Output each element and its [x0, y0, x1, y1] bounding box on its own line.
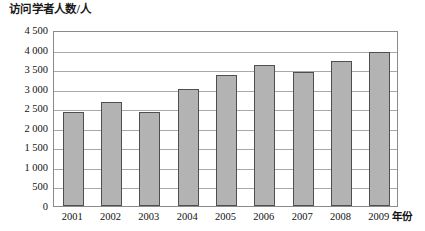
bar — [331, 61, 352, 206]
y-axis-title: 访问学者人数/人 — [9, 2, 92, 16]
y-tick-label: 4 000 — [4, 46, 48, 56]
bar — [63, 112, 84, 206]
y-tick-label: 1 500 — [4, 143, 48, 153]
bar — [139, 112, 160, 206]
y-tick-label: 0 — [4, 202, 48, 212]
bar — [369, 52, 390, 206]
bar — [254, 65, 275, 206]
plot-area — [53, 31, 398, 207]
bar — [216, 75, 237, 206]
gridline — [54, 52, 397, 53]
bar — [293, 72, 314, 206]
y-tick-label: 500 — [4, 182, 48, 192]
y-tick-label: 1 000 — [4, 163, 48, 173]
y-tick-label: 3 000 — [4, 85, 48, 95]
y-tick-label: 2 000 — [4, 124, 48, 134]
y-tick-label: 4 500 — [4, 26, 48, 36]
y-tick-label: 3 500 — [4, 65, 48, 75]
bar — [178, 89, 199, 206]
x-axis-title: 年份 — [392, 211, 412, 222]
y-tick-label: 2 500 — [4, 104, 48, 114]
bar-chart: 访问学者人数/人 05001 0001 5002 0002 5003 0003 … — [0, 0, 425, 231]
bar — [101, 102, 122, 206]
